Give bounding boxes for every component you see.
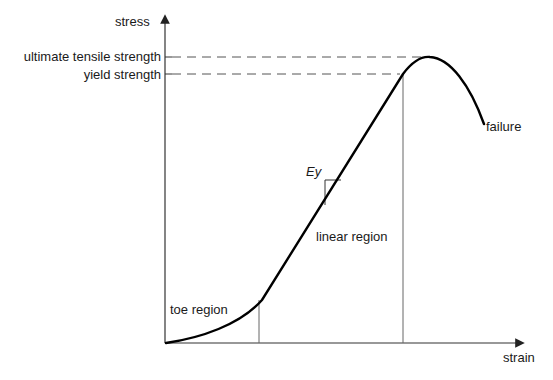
slope-label: Ey <box>306 165 321 178</box>
uts-label: ultimate tensile strength <box>24 50 161 63</box>
linear-region-label: linear region <box>316 230 388 243</box>
failure-label: failure <box>486 120 521 133</box>
stress-strain-diagram: stress strain ultimate tensile strength … <box>0 0 553 380</box>
toe-region-label: toe region <box>170 303 228 316</box>
slope-triangle <box>325 180 341 205</box>
stress-strain-curve <box>166 57 484 343</box>
x-axis-label: strain <box>503 351 535 364</box>
yield-label: yield strength <box>84 68 161 81</box>
y-axis-label: stress <box>115 15 150 28</box>
